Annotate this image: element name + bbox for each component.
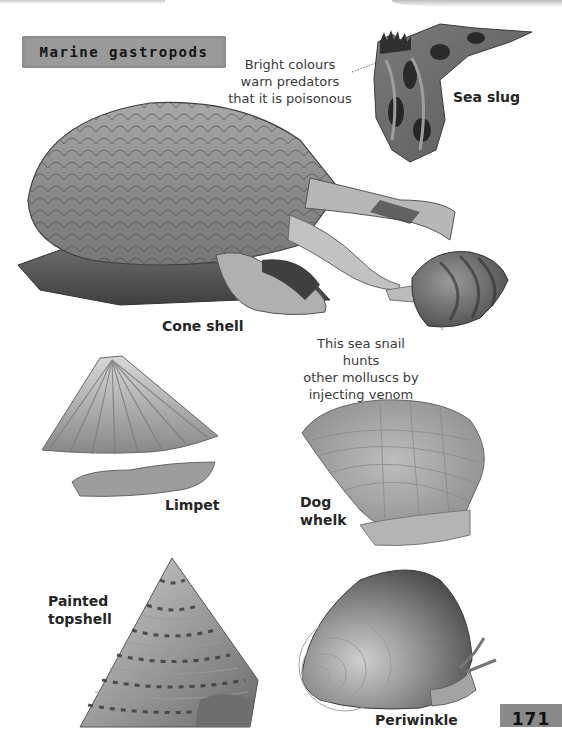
page-number: 171: [500, 704, 562, 727]
periwinkle-label: Periwinkle: [375, 711, 458, 729]
